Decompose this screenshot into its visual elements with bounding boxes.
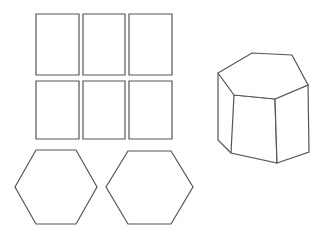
rect-r2c3 [129,81,172,139]
rect-r1c2 [83,14,125,75]
rect-r2c2 [83,81,125,139]
prism-front-left-face [231,95,277,163]
rect-r1c3 [129,14,172,75]
rect-r1c1 [36,14,79,75]
geometry-figure [0,0,323,238]
figure-root [0,0,323,238]
rect-r2c1 [36,81,79,139]
